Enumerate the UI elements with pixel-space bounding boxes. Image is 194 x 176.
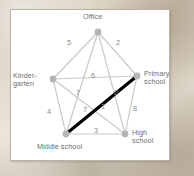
edge-weight-middle_school-high_school: 3 xyxy=(94,127,98,135)
graph-node-high_school[interactable] xyxy=(122,131,129,138)
edge-weight-kindergarten-high_school: 7 xyxy=(83,106,87,114)
diagram-card: OfficeKinder-gartenPrimaryschoolMiddle s… xyxy=(10,9,170,161)
node-label-kindergarten: Kinder-garten xyxy=(13,72,37,87)
node-label-office: Office xyxy=(83,13,102,21)
node-label-primary_school: Primaryschool xyxy=(144,70,169,85)
edge-weight-office-high_school: 2 xyxy=(114,89,118,97)
edge-weight-primary_school-high_school: 8 xyxy=(133,105,137,113)
edge-weight-office-primary_school: 2 xyxy=(116,39,120,47)
graph-node-office[interactable] xyxy=(95,29,102,36)
edge-weight-kindergarten-primary_school: 7 xyxy=(76,89,80,97)
node-label-high_school: Highschool xyxy=(132,129,153,144)
node-label-middle_school: Middle school xyxy=(37,143,82,151)
edge-weight-office-middle_school: 6 xyxy=(91,72,95,80)
edge-weight-office-kindergarten: 5 xyxy=(67,39,71,47)
node-label-line: school xyxy=(144,78,169,86)
node-label-line: Office xyxy=(83,13,102,21)
node-label-line: garten xyxy=(13,80,37,88)
edges-layer xyxy=(53,32,137,134)
graph-node-kindergarten[interactable] xyxy=(50,76,57,83)
graph-node-primary_school[interactable] xyxy=(134,73,141,80)
node-label-line: Middle school xyxy=(37,143,82,151)
edge-weight-kindergarten-middle_school: 4 xyxy=(47,108,51,116)
node-label-line: school xyxy=(132,137,153,145)
graph-edge xyxy=(66,32,98,134)
edge-weight-primary_school-middle_school: 1 xyxy=(101,103,105,111)
graph-node-middle_school[interactable] xyxy=(63,131,70,138)
